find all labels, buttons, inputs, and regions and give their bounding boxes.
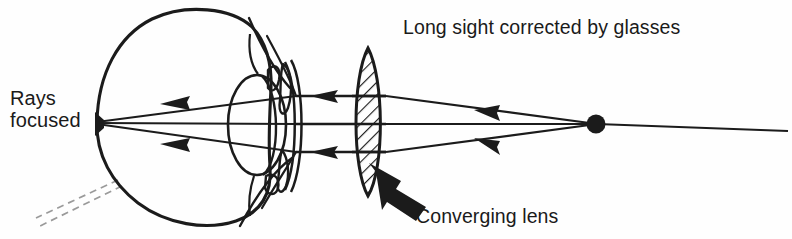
rays-focused-line2: focused	[10, 110, 81, 132]
converging-lens-label: Converging lens	[416, 206, 558, 227]
object-point	[587, 115, 789, 134]
page-title: Long sight corrected by glasses	[403, 17, 680, 38]
eyeball-outline	[97, 9, 271, 225]
rays-inside-eye	[97, 96, 296, 152]
ray-arrowhead-icon	[474, 105, 500, 155]
rays-focused-line1: Rays	[10, 87, 56, 109]
optic-nerve	[36, 180, 122, 226]
rays-focused-label: Raysfocused	[10, 88, 81, 131]
eye-front-coat	[240, 18, 296, 226]
optics-diagram: Long sight corrected by glasses Raysfocu…	[0, 0, 792, 239]
retina-focus-point	[95, 112, 104, 136]
